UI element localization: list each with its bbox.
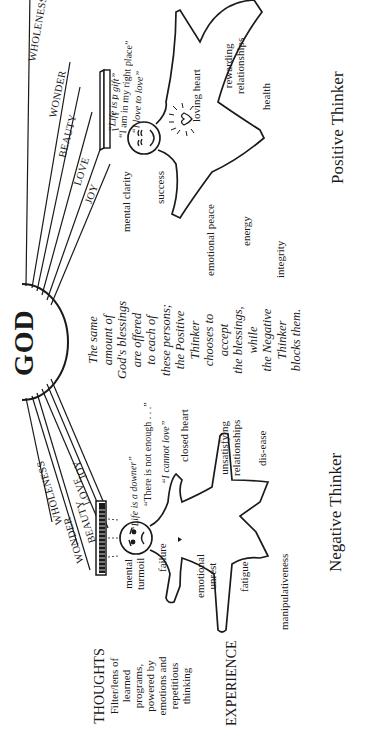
positive-energy: energy: [240, 216, 252, 246]
thoughts-legend: THOUGHTS Filter/lens of learned programs…: [92, 638, 192, 734]
thoughts-heading: THOUGHTS: [92, 638, 108, 734]
negative-fatigue: fatigue: [238, 561, 250, 592]
diagram-page: GOD WHOLENESS WONDER BEAUTY LOVE JOY WHO…: [0, 0, 367, 742]
positive-thinker-title: Positive Thinker: [328, 71, 348, 184]
center-statement: The same amount of God's blessings are o…: [86, 266, 304, 414]
positive-success: success: [154, 171, 166, 204]
negative-closed-heart: closed heart: [178, 409, 190, 462]
positive-emotional-peace: emotional peace: [204, 204, 216, 276]
negative-unsatisfying-relationships: unsatisfying relationships: [218, 420, 242, 476]
god-label: GOD: [8, 309, 40, 376]
positive-health: health: [260, 83, 272, 110]
negative-quote-2: “There is not enough . . .”: [142, 402, 153, 506]
negative-emotional-unrest: emotional unrest: [194, 554, 218, 598]
positive-mental-clarity: mental clarity: [120, 171, 132, 232]
positive-integrity: integrity: [274, 241, 286, 278]
negative-mental-turmoil: mental turmoil: [122, 558, 146, 590]
negative-quote-3: “I cannot love”: [160, 421, 171, 484]
negative-thinker-title: Negative Thinker: [326, 453, 346, 572]
negative-dis-ease: dis-ease: [256, 431, 268, 466]
positive-loving-heart: loving heart: [190, 69, 202, 122]
negative-failure: failure: [156, 543, 168, 572]
negative-filter-bar: [96, 501, 118, 575]
experience-heading: EXPERIENCE: [224, 640, 240, 726]
negative-manipulativeness: manipulativeness: [278, 554, 290, 630]
positive-rewarding-relationships: rewarding relationships: [222, 38, 246, 94]
negative-heart-icon: [178, 537, 182, 542]
